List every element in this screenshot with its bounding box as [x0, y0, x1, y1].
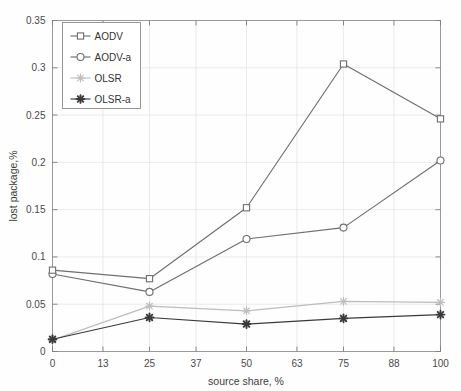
y-tick-label: 0.15 — [26, 204, 46, 215]
data-point-square-marker — [49, 267, 55, 273]
x-tick-label: 100 — [432, 358, 449, 369]
y-tick-label: 0.3 — [32, 62, 46, 73]
y-tick-label: 0.35 — [26, 15, 46, 26]
legend-label: OLSR — [95, 73, 122, 84]
legend-entry-olsr-a[interactable]: OLSR-a — [71, 94, 132, 105]
x-axis-title: source share, % — [208, 375, 284, 387]
legend-label: AODV-a — [95, 52, 132, 63]
chart-legend[interactable]: AODVAODV-aOLSROLSR-a — [63, 23, 141, 109]
y-axis-title: lost package,% — [7, 150, 19, 221]
x-tick-label: 25 — [144, 358, 156, 369]
legend-square-marker — [77, 33, 83, 39]
x-tick-label: 0 — [50, 358, 56, 369]
data-point-square-marker — [146, 276, 152, 282]
y-tick-label: 0.1 — [32, 251, 46, 262]
legend-circle-marker — [77, 54, 84, 61]
x-tick-label: 75 — [338, 358, 350, 369]
x-tick-label: 88 — [388, 358, 400, 369]
y-tick-label: 0.25 — [26, 110, 46, 121]
data-point-circle-marker — [146, 288, 153, 295]
legend-label: AODV — [95, 31, 124, 42]
data-point-square-marker — [243, 205, 249, 211]
x-tick-label: 50 — [241, 358, 253, 369]
line-chart-plot: 00.050.10.150.20.250.30.35 0132537506375… — [0, 0, 461, 391]
data-point-circle-marker — [243, 235, 250, 242]
legend-entry-aodv-a[interactable]: AODV-a — [71, 52, 132, 63]
y-tick-label: 0.2 — [32, 157, 46, 168]
data-point-circle-marker — [340, 224, 347, 231]
y-tick-label: 0.05 — [26, 299, 46, 310]
data-point-circle-marker — [437, 157, 444, 164]
x-tick-label: 63 — [291, 358, 303, 369]
data-point-square-marker — [437, 116, 443, 122]
y-tick-label: 0 — [40, 346, 46, 357]
chart-figure: 00.050.10.150.20.250.30.35 0132537506375… — [0, 0, 461, 391]
legend-label: OLSR-a — [95, 94, 132, 105]
x-tick-label: 13 — [97, 358, 109, 369]
x-tick-label: 37 — [190, 358, 202, 369]
data-point-square-marker — [340, 61, 346, 67]
